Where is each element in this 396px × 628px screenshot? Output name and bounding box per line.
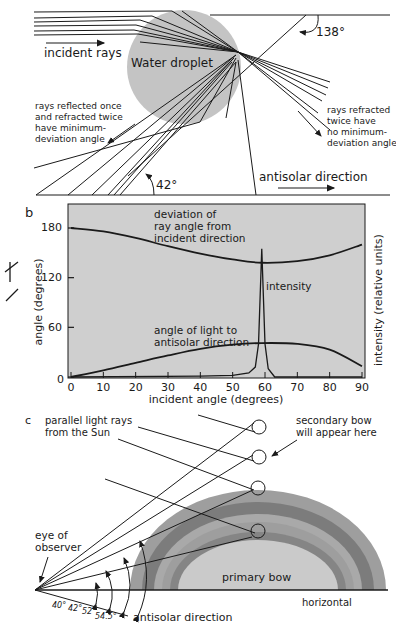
droplet-icon — [252, 450, 266, 464]
reflected-arrow — [108, 124, 135, 143]
panel-b-letter: b — [25, 205, 33, 220]
rainbow-figure: 138° 42° incident rays Water droplet ray… — [0, 0, 396, 628]
angle-42-label: 42° — [156, 178, 177, 192]
y-axis-right-label: intensity (relative units) — [372, 234, 385, 366]
antisolar-label-a: antisolar direction — [259, 170, 368, 184]
incident-rays-label: incident rays — [44, 46, 122, 60]
x-tick-label: 10 — [96, 381, 110, 394]
droplet-icon — [252, 420, 266, 434]
x-tick-label: 0 — [68, 381, 75, 394]
panel-a: 138° 42° incident rays Water droplet ray… — [34, 10, 396, 195]
eye-arrow — [40, 557, 48, 582]
horizontal-label: horizontal — [302, 597, 352, 608]
x-tick-label: 80 — [323, 381, 337, 394]
secondary-bow-label: secondary bow will appear here — [296, 415, 377, 438]
x-tick-label: 70 — [290, 381, 304, 394]
y-tick-180: 180 — [41, 221, 62, 234]
eye-label: eye of observer — [35, 529, 82, 553]
sun-rays-label: parallel light rays from the Sun — [45, 415, 135, 438]
panel-c: c horizontal primary bow antisolar direc… — [25, 414, 388, 624]
panel-b: b 180 120 60 0 0102030405060708090 angle… — [5, 204, 385, 406]
x-tick-label: 20 — [129, 381, 143, 394]
angle-labels-c: 40° 42° 52° 54.5° — [52, 601, 117, 621]
reflected-note: rays reflected once and refracted twice … — [35, 101, 126, 144]
intensity-series-label: intensity — [266, 280, 312, 292]
angle-42-arc — [146, 174, 154, 195]
angle-glyph-icon — [5, 262, 18, 301]
primary-bow-label: primary bow — [222, 571, 291, 584]
x-tick-label: 90 — [355, 381, 369, 394]
antisolar-series-label: angle of light to antisolar direction — [154, 324, 249, 348]
panel-c-letter: c — [25, 414, 31, 427]
x-axis-label: incident angle (degrees) — [149, 393, 284, 406]
y-tick-0: 0 — [57, 373, 64, 386]
refracted-arrow — [298, 111, 321, 136]
refracted-note: rays refracted twice have no minimum- de… — [327, 105, 396, 148]
y-axis-label: angle (degrees) — [32, 259, 45, 346]
antisolar-label-c: antisolar direction — [133, 611, 233, 624]
angle-138-label: 138° — [316, 25, 345, 39]
y-tick-60: 60 — [48, 321, 62, 334]
water-droplet-label: Water droplet — [131, 56, 213, 70]
secondary-bow-arrow — [272, 440, 297, 456]
